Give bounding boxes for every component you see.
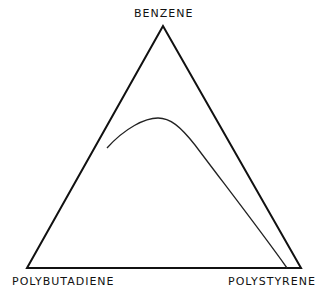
label-polybutadiene: POLYBUTADIENE xyxy=(12,275,115,288)
ternary-plot xyxy=(0,0,326,299)
label-polystyrene: POLYSTYRENE xyxy=(228,275,316,288)
phase-boundary-curve xyxy=(107,118,287,268)
label-benzene: BENZENE xyxy=(134,7,193,20)
